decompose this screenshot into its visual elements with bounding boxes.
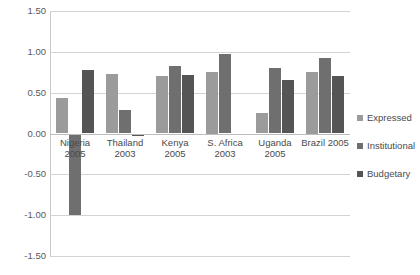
bar-institutional (269, 68, 281, 133)
bar-budgetary (82, 70, 94, 134)
y-axis-tick-label: 1.50 (2, 6, 46, 16)
y-axis-tick-label: 1.00 (2, 47, 46, 57)
bar-institutional (319, 58, 331, 134)
bar-expressed (106, 74, 118, 134)
chart-legend: ExpressedInstitutionalBudgetary (357, 112, 415, 196)
x-axis-category-label: Thailand 2003 (100, 137, 150, 159)
legend-label: Institutional (367, 140, 415, 151)
legend-swatch-icon (357, 171, 363, 177)
bar-institutional (119, 110, 131, 134)
x-axis-category-label: S. Africa 2003 (200, 137, 250, 159)
bar-expressed (206, 72, 218, 133)
x-axis-category-label: Uganda 2005 (250, 137, 300, 159)
legend-item-expressed[interactable]: Expressed (357, 112, 415, 123)
bar-expressed (256, 113, 268, 133)
bar-expressed (56, 98, 68, 133)
y-axis-tick-label: -0.50 (2, 170, 46, 180)
y-axis-tick-label: -1.00 (2, 210, 46, 220)
bar-budgetary (332, 76, 344, 134)
bar-budgetary (182, 75, 194, 134)
y-axis-tick-label: 0.00 (2, 129, 46, 139)
legend-item-budgetary[interactable]: Budgetary (357, 168, 415, 179)
bar-expressed (306, 72, 318, 133)
legend-swatch-icon (357, 143, 363, 149)
bar-chart: 1.501.000.500.00-0.50-1.00-1.50 Nigeria … (0, 0, 420, 275)
bar-institutional (219, 54, 231, 133)
legend-item-institutional[interactable]: Institutional (357, 140, 415, 151)
legend-label: Expressed (367, 112, 412, 123)
bar-budgetary (282, 80, 294, 134)
y-axis-tick-label: 0.50 (2, 88, 46, 98)
gridline (50, 256, 350, 257)
legend-swatch-icon (357, 115, 363, 121)
x-axis-category-label: Kenya 2005 (150, 137, 200, 159)
bar-expressed (156, 76, 168, 133)
x-axis-category-label: Brazil 2005 (300, 137, 350, 148)
plot-area (50, 11, 350, 256)
x-axis-category-label: Nigeria 2005 (50, 137, 100, 159)
y-axis-tick-label: -1.50 (2, 251, 46, 261)
legend-label: Budgetary (367, 168, 410, 179)
zero-line (50, 134, 350, 135)
bar-institutional (169, 66, 181, 134)
